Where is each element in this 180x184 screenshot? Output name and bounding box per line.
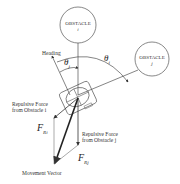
f-rj-label: FRj [78,152,89,165]
force-j-label: Repulsive Force from Obstacle j [82,131,118,143]
force-i-label: Repulsive Force from Obstacle i [12,101,48,113]
heading-label: Heading [42,50,61,56]
obstacle-j-label: OBSTACLE j [135,55,169,67]
theta-i-label: θi [104,53,110,65]
obstacle-i-label: OBSTACLE i [60,21,96,33]
movement-vector-label: Movement Vector [22,170,61,176]
theta-j-label: θj [64,57,70,69]
f-ri-label: FRi [37,122,48,135]
